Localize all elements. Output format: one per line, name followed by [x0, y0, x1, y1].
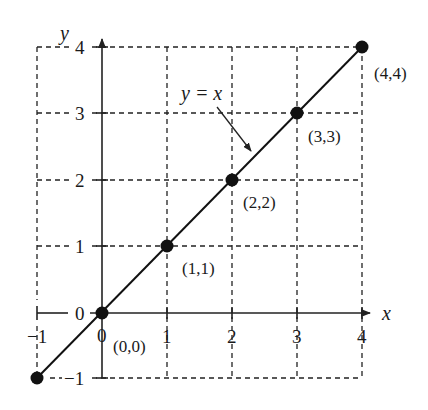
x-tick-4: 4 — [357, 326, 367, 347]
y-tick-4: 4 — [75, 37, 85, 58]
plot-area: y x 4 3 2 1 0 −1 −1 0 1 2 3 4 (0,0) (1,1… — [0, 0, 428, 410]
x-tick-0: 0 — [97, 325, 107, 346]
y-tick-neg1: −1 — [64, 368, 84, 389]
label-1-1: (1,1) — [182, 259, 215, 278]
x-tick-1: 1 — [162, 326, 172, 347]
point-2-2 — [226, 174, 239, 187]
y-tick-1: 1 — [75, 236, 85, 257]
point-3-3 — [291, 107, 304, 120]
x-axis-label: x — [381, 302, 391, 324]
x-tick-2: 2 — [227, 326, 237, 347]
point-neg1-neg1 — [31, 372, 44, 385]
x-tick-3: 3 — [292, 326, 302, 347]
chart-y-equals-x: y x 4 3 2 1 0 −1 −1 0 1 2 3 4 (0,0) (1,1… — [0, 0, 428, 410]
y-tick-3: 3 — [75, 103, 85, 124]
label-3-3: (3,3) — [308, 127, 341, 146]
label-4-4: (4,4) — [374, 64, 407, 83]
y-axis-label: y — [58, 22, 69, 45]
label-2-2: (2,2) — [243, 193, 276, 212]
point-1-1 — [161, 240, 174, 253]
point-0-0 — [96, 307, 109, 320]
y-tick-0: 0 — [75, 303, 85, 324]
point-4-4 — [356, 41, 369, 54]
y-tick-2: 2 — [75, 170, 85, 191]
x-tick-neg1: −1 — [27, 326, 47, 347]
line-label: y = x — [179, 82, 222, 105]
label-0-0: (0,0) — [113, 337, 146, 356]
y-tick-labels: 4 3 2 1 0 −1 — [64, 37, 85, 389]
